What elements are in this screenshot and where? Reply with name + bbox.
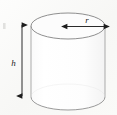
cylinder-diagram-canvas: h r: [0, 0, 117, 115]
scan-speck-icon: [3, 23, 6, 29]
radius-label: r: [85, 15, 89, 25]
cylinder-figure: h r: [0, 0, 117, 115]
cylinder-shape: [31, 13, 105, 110]
height-label: h: [11, 58, 16, 68]
